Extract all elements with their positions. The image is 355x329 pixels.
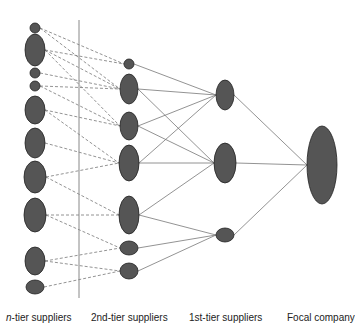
supplier-node-tier-1 xyxy=(214,143,236,183)
supplier-node-tier-n xyxy=(25,247,45,275)
focal-company-node xyxy=(307,126,337,204)
solid-edge xyxy=(138,235,216,248)
supplier-node-tier-n xyxy=(30,68,40,78)
supplier-node-tier-2 xyxy=(120,112,138,140)
supplier-node-tier-n xyxy=(26,280,44,294)
dashed-edge xyxy=(45,50,120,126)
dashed-edge xyxy=(40,86,120,89)
label-2nd-tier: 2nd-tier suppliers xyxy=(91,312,168,323)
label-1st-tier: 1st-tier suppliers xyxy=(189,312,262,323)
supplier-node-tier-n xyxy=(25,96,45,124)
dashed-edge xyxy=(40,86,120,126)
supplier-node-tier-2 xyxy=(120,263,138,279)
supplier-node-tier-n xyxy=(25,34,45,66)
supplier-node-tier-2 xyxy=(119,196,139,234)
supplier-nodes xyxy=(24,23,337,294)
dashed-edge xyxy=(45,110,120,126)
supplier-node-tier-2 xyxy=(120,74,138,104)
n-tier-to-2nd-tier-edges xyxy=(40,28,124,287)
dashed-edge xyxy=(45,143,119,163)
solid-edge xyxy=(234,95,307,165)
supplier-node-tier-2 xyxy=(120,241,138,255)
solid-edge xyxy=(234,165,307,235)
solid-edge xyxy=(138,235,216,271)
solid-edge xyxy=(139,163,214,215)
supplier-node-tier-2 xyxy=(119,145,139,181)
solid-edge xyxy=(139,95,216,163)
solid-edge xyxy=(138,89,216,95)
label-n-tier: n-tier suppliers xyxy=(6,312,72,323)
supplier-node-tier-n xyxy=(24,161,46,193)
dashed-edge xyxy=(40,28,120,89)
solid-edge xyxy=(139,215,216,235)
dashed-edge xyxy=(45,261,120,271)
dashed-edge xyxy=(45,50,120,89)
solid-edge xyxy=(138,126,214,163)
supplier-node-tier-n xyxy=(24,198,46,232)
dashed-edge xyxy=(40,28,124,64)
dashed-edge xyxy=(44,271,120,287)
solid-edge xyxy=(138,95,216,126)
dashed-edge xyxy=(46,215,120,248)
supply-network-diagram xyxy=(0,0,355,329)
supplier-node-tier-n xyxy=(25,128,45,158)
supplier-node-tier-1 xyxy=(216,228,234,242)
dashed-edge xyxy=(46,163,119,177)
solid-edge xyxy=(236,163,307,165)
label-focal-company: Focal company xyxy=(287,312,355,323)
dashed-edge xyxy=(45,248,120,261)
supplier-node-tier-n xyxy=(30,81,40,91)
dashed-edge xyxy=(46,177,119,215)
supplier-node-tier-n xyxy=(30,23,40,33)
label-n-tier-rest: -tier suppliers xyxy=(12,312,72,323)
solid-edge xyxy=(134,64,216,95)
supplier-node-tier-2 xyxy=(124,59,134,69)
supplier-node-tier-1 xyxy=(216,80,234,110)
